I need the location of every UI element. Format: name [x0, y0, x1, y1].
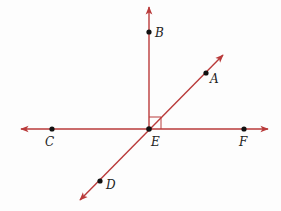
point-b: [146, 29, 151, 34]
label-c: C: [45, 135, 54, 149]
diagram-canvas: B A C E F D: [0, 0, 281, 211]
geometry-diagram: B A C E F D: [0, 0, 281, 211]
point-a: [203, 70, 208, 75]
label-f: F: [238, 135, 248, 149]
label-a: A: [209, 72, 219, 86]
label-d: D: [105, 178, 116, 192]
point-f: [241, 126, 246, 131]
point-d: [97, 178, 102, 183]
label-b: B: [154, 26, 164, 40]
point-e: [146, 126, 152, 132]
line-da: [80, 55, 223, 200]
label-e: E: [150, 135, 160, 149]
point-c: [49, 126, 54, 131]
